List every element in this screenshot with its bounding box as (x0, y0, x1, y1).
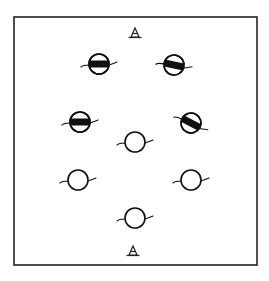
figures-group (60, 51, 212, 228)
half-filled-circle-figure (170, 106, 211, 141)
open-circle-figure (60, 170, 96, 190)
open-circle-figure (173, 170, 209, 190)
half-filled-circle-figure (81, 54, 117, 74)
half-filled-circle-figure (62, 112, 98, 132)
half-filled-circle-figure (154, 51, 193, 78)
triangle-marker-icon (129, 28, 142, 38)
open-circle-figure (117, 132, 153, 152)
triangle-marker-icon (127, 246, 140, 256)
figure-diagram (0, 0, 269, 281)
open-circle-figure (117, 208, 153, 228)
